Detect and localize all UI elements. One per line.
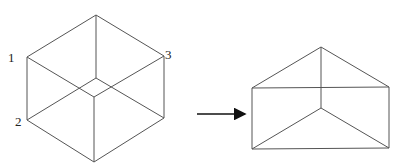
edge-line <box>94 118 164 162</box>
edge-line <box>27 78 96 120</box>
vertex-label-3: 3 <box>165 48 172 61</box>
edge-line <box>96 15 164 56</box>
edge-line <box>27 15 96 57</box>
edge-line <box>321 47 389 87</box>
edge-line <box>27 120 94 162</box>
triangular-prism-figure <box>252 47 389 149</box>
edge-line <box>94 56 164 97</box>
edge-line <box>321 108 389 148</box>
edge-line <box>252 148 389 149</box>
edge-line <box>96 78 164 118</box>
diagram-canvas <box>0 0 403 168</box>
edge-line <box>252 108 321 149</box>
ambiguous-cube-figure <box>27 15 164 162</box>
vertex-label-1: 1 <box>8 51 15 64</box>
vertex-label-2: 2 <box>15 115 22 128</box>
edge-line <box>252 47 321 88</box>
edge-line <box>27 57 94 97</box>
